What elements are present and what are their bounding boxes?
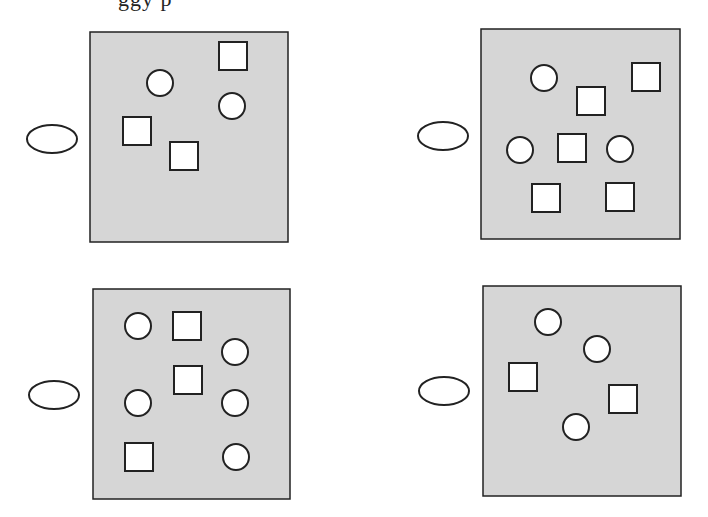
circle-shape <box>147 70 173 96</box>
circle-shape <box>125 390 151 416</box>
circle-shape <box>563 414 589 440</box>
square-shape <box>606 183 634 211</box>
circle-shape <box>507 137 533 163</box>
circle-shape <box>223 444 249 470</box>
circle-shape <box>584 336 610 362</box>
panel-box <box>90 32 288 242</box>
ellipse-marker <box>27 125 77 153</box>
ellipse-marker <box>29 381 79 409</box>
square-shape <box>125 443 153 471</box>
square-shape <box>170 142 198 170</box>
square-shape <box>509 363 537 391</box>
square-shape <box>532 184 560 212</box>
square-shape <box>173 312 201 340</box>
diagram-canvas <box>0 0 708 517</box>
panel-top-left <box>27 32 288 242</box>
square-shape <box>632 63 660 91</box>
panel-bottom-right <box>419 286 681 496</box>
circle-shape <box>607 136 633 162</box>
square-shape <box>577 87 605 115</box>
square-shape <box>219 42 247 70</box>
circle-shape <box>222 390 248 416</box>
circle-shape <box>222 339 248 365</box>
ellipse-marker <box>418 122 468 150</box>
square-shape <box>174 366 202 394</box>
circle-shape <box>125 313 151 339</box>
panel-top-right <box>418 29 680 239</box>
panel-bottom-left <box>29 289 290 499</box>
square-shape <box>123 117 151 145</box>
square-shape <box>558 134 586 162</box>
square-shape <box>609 385 637 413</box>
circle-shape <box>219 93 245 119</box>
circle-shape <box>531 65 557 91</box>
ellipse-marker <box>419 377 469 405</box>
circle-shape <box>535 309 561 335</box>
